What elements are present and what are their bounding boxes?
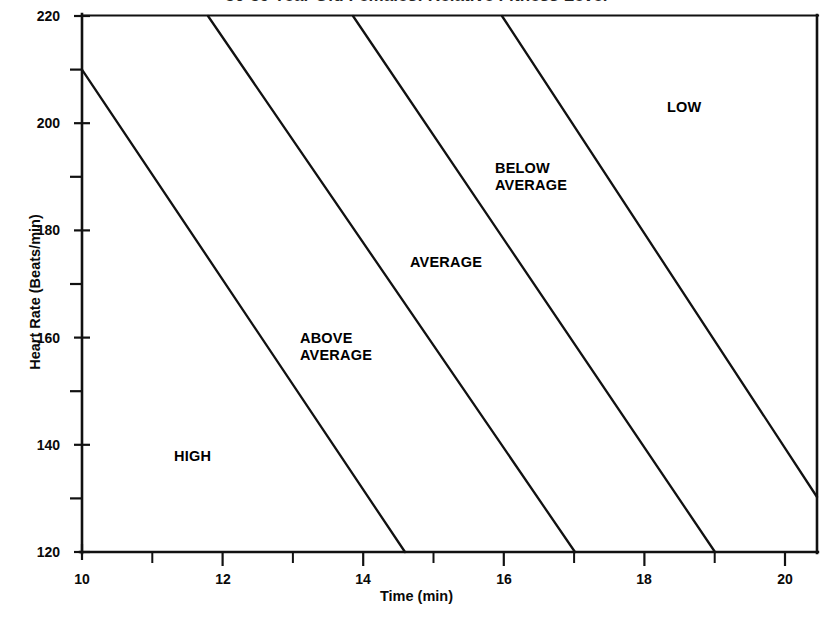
y-tick-label-220: 220 xyxy=(16,9,60,23)
zone-label-low: LOW xyxy=(667,99,701,116)
x-tick-label-18: 18 xyxy=(620,572,668,586)
x-axis-title: Time (min) xyxy=(0,588,833,604)
plot-canvas xyxy=(0,0,833,618)
boundary-line-3 xyxy=(353,16,715,552)
y-axis-title: Heart Rate (Beats/min) xyxy=(27,152,43,432)
zone-label-high: HIGH xyxy=(174,448,211,465)
boundary-line-4 xyxy=(502,16,817,497)
fitness-level-chart: 50-59 Year Old Females: Relative Fitness… xyxy=(0,0,833,618)
x-tick-label-16: 16 xyxy=(480,572,528,586)
x-tick-label-10: 10 xyxy=(58,572,106,586)
boundary-line-2 xyxy=(208,16,575,552)
boundary-line-1 xyxy=(82,70,405,552)
zone-label-below-average: BELOW AVERAGE xyxy=(495,160,567,194)
x-minor-ticks xyxy=(152,552,714,563)
x-tick-label-12: 12 xyxy=(199,572,247,586)
y-tick-label-140: 140 xyxy=(16,438,60,452)
zone-label-above-average: ABOVE AVERAGE xyxy=(300,330,372,364)
y-tick-label-120: 120 xyxy=(16,545,60,559)
y-tick-label-200: 200 xyxy=(16,116,60,130)
zone-boundary-lines xyxy=(82,16,817,552)
x-tick-label-20: 20 xyxy=(761,572,809,586)
y-minor-ticks xyxy=(70,70,82,499)
zone-label-average: AVERAGE xyxy=(410,254,482,271)
plot-frame xyxy=(80,14,818,553)
x-tick-label-14: 14 xyxy=(339,572,387,586)
